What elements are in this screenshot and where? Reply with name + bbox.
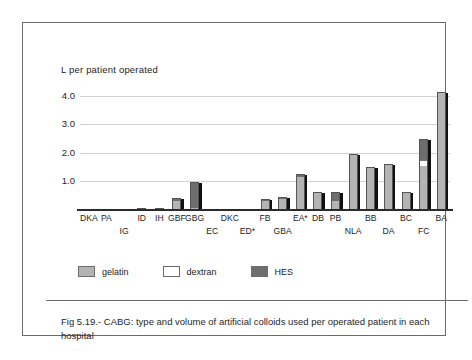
x-axis-label-text: IH: [155, 213, 164, 223]
bar-segment-gelatin: [314, 193, 321, 209]
bar-segment-gelatin: [403, 193, 410, 209]
bar-DB: [313, 192, 322, 209]
bar-slot: [433, 85, 451, 209]
bar-NLA: [349, 154, 358, 209]
bar-slot: [292, 85, 310, 209]
x-axis-label-GBG: GBG: [186, 213, 204, 247]
y-axis-tick-label: 2.0: [62, 147, 75, 158]
x-axis-label-DA: DA: [380, 213, 398, 247]
y-axis-title: L per patient operated: [61, 64, 158, 75]
bar-slot: [256, 85, 274, 209]
bar-slot: [203, 85, 221, 209]
x-axis-label-GBA: GBA: [274, 213, 292, 247]
bar-segment-gelatin: [173, 201, 180, 209]
x-axis-label-BB: BB: [362, 213, 380, 247]
x-axis-label-text: FC: [418, 226, 429, 236]
x-axis-label-FB: FB: [256, 213, 274, 247]
x-axis-label-IG: IG: [115, 213, 133, 247]
x-axis-label-text: GBF: [168, 213, 186, 223]
bar-segment-gelatin: [367, 168, 374, 209]
x-axis-label-text: ID: [137, 213, 146, 223]
bar-segment-gelatin: [332, 201, 339, 209]
bar-BA: [437, 92, 446, 209]
bar-segment-gelatin: [279, 199, 286, 209]
bar-GBA: [278, 197, 287, 209]
bar-FB: [261, 199, 270, 209]
bar-slot: [221, 85, 239, 209]
bar-segment-gelatin: [385, 165, 392, 209]
bar-slot: [274, 85, 292, 209]
x-axis-label-DB: DB: [309, 213, 327, 247]
bar-slot: [415, 85, 433, 209]
bar-BC: [402, 192, 411, 209]
legend-label: gelatin: [102, 267, 129, 277]
bar-segment-hes: [420, 140, 427, 161]
bar-slot: [362, 85, 380, 209]
x-axis-label-text: PA: [101, 213, 112, 223]
x-axis-label-text: GBG: [185, 213, 204, 223]
bar-slot: [309, 85, 327, 209]
bar-GBF: [172, 198, 181, 209]
x-axis-label-text: DA: [382, 226, 394, 236]
bar-EAstar: [296, 174, 305, 209]
bar-segment-gelatin: [438, 93, 445, 209]
legend-swatch-dextran: [163, 266, 180, 277]
x-axis-label-text: BB: [365, 213, 376, 223]
x-axis-label-text: DKA: [80, 213, 98, 223]
legend-item-dextran: dextran: [163, 266, 217, 277]
x-axis-line: [77, 209, 453, 211]
bar-slot: [168, 85, 186, 209]
bar-slot: [344, 85, 362, 209]
x-axis-label-text: ED*: [240, 226, 255, 236]
x-axis-label-text: FB: [260, 213, 271, 223]
bar-segment-gelatin: [297, 177, 304, 209]
x-axis-label-FC: FC: [415, 213, 433, 247]
bar-segment-hes: [191, 183, 198, 207]
x-axis-label-text: BA: [436, 213, 447, 223]
bar-PB: [331, 192, 340, 209]
legend-label: HES: [275, 267, 294, 277]
x-axis-label-IH: IH: [151, 213, 169, 247]
x-axis-label-text: PB: [330, 213, 341, 223]
x-axis-label-EDstar: ED*: [239, 213, 257, 247]
bar-segment-gelatin: [350, 155, 357, 209]
bar-slot: [397, 85, 415, 209]
legend-item-gelatin: gelatin: [78, 266, 129, 277]
bar-segment-gelatin: [420, 166, 427, 209]
figure-frame: L per patient operated 1.02.03.04.0 DKAP…: [22, 22, 446, 336]
bar-slot: [98, 85, 116, 209]
bar-DA: [384, 164, 393, 209]
x-axis-label-BA: BA: [433, 213, 451, 247]
bar-GBG: [190, 182, 199, 209]
legend-swatch-gelatin: [78, 266, 95, 277]
legend-label: dextran: [187, 267, 217, 277]
legend-item-hes: HES: [251, 266, 294, 277]
x-axis-label-EAstar: EA*: [292, 213, 310, 247]
x-axis-label-DKC: DKC: [221, 213, 239, 247]
bar-slot: [115, 85, 133, 209]
y-axis-tick-label: 4.0: [62, 90, 75, 101]
bar-FC: [419, 139, 428, 209]
x-axis-label-text: IG: [120, 226, 129, 236]
x-axis-label-text: NLA: [345, 226, 362, 236]
x-axis-label-NLA: NLA: [344, 213, 362, 247]
x-axis-label-text: DB: [312, 213, 324, 223]
x-axis-label-EC: EC: [203, 213, 221, 247]
x-axis-label-PA: PA: [98, 213, 116, 247]
bar-BB: [366, 167, 375, 209]
x-axis-label-text: BC: [400, 213, 412, 223]
y-axis-tick-label: 3.0: [62, 118, 75, 129]
x-axis-label-text: DKC: [221, 213, 239, 223]
bar-segment-gelatin: [262, 201, 269, 209]
legend-swatch-hes: [251, 266, 268, 277]
bar-series-group: [80, 85, 450, 209]
x-axis-label-ID: ID: [133, 213, 151, 247]
figure-caption: Fig 5.19.- CABG: type and volume of arti…: [61, 315, 457, 343]
bar-slot: [133, 85, 151, 209]
x-axis-label-text: GBA: [274, 226, 292, 236]
x-axis-label-PB: PB: [327, 213, 345, 247]
bar-slot: [327, 85, 345, 209]
bar-slot: [80, 85, 98, 209]
bar-slot: [380, 85, 398, 209]
bar-slot: [239, 85, 257, 209]
